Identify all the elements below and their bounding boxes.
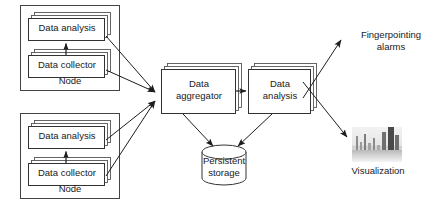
data-analysis-label-line2: analysis: [249, 91, 311, 102]
node-top-data-analysis-label: Data analysis: [29, 23, 105, 34]
persistent-storage-label-line1: Persistent: [194, 156, 254, 167]
node-bottom-label: Node: [20, 184, 120, 195]
arrows-to-storage: [183, 114, 272, 146]
visualization-label: Visualization: [340, 166, 416, 177]
fingerpointing-alarms-label-line2: alarms: [345, 42, 437, 53]
node-bottom-data-collector-label: Data collector: [29, 168, 105, 179]
data-aggregator-label-line2: aggregator: [162, 91, 236, 102]
data-analysis-label-line1: Data: [249, 79, 311, 90]
node-top-label: Node: [20, 76, 120, 87]
node-top-data-collector-label: Data collector: [29, 60, 105, 71]
diagram-canvas: Node Data analysis Data collector Node D…: [0, 0, 440, 211]
persistent-storage-label-line2: storage: [194, 168, 254, 179]
node-bottom-data-analysis-label: Data analysis: [29, 131, 105, 142]
data-aggregator-label-line1: Data: [162, 79, 236, 90]
visualization-thumbnail-icon: [352, 127, 402, 162]
fingerpointing-alarms-label-line1: Fingerpointing: [345, 30, 437, 41]
